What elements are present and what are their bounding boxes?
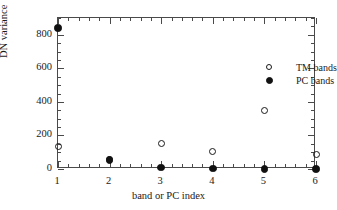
x-axis-minor-tick-top: [295, 18, 296, 21]
y-tick-label: 200: [12, 129, 52, 140]
data-point-pc-bands: [312, 165, 320, 173]
y-axis-minor-tick-right: [311, 127, 314, 128]
filled-circle-icon: [266, 77, 273, 84]
y-axis-minor-tick: [58, 43, 61, 44]
x-axis-minor-tick: [151, 164, 152, 167]
x-tick-label: 3: [148, 176, 172, 187]
y-axis-minor-tick: [58, 152, 61, 153]
x-tick-label: 5: [251, 176, 275, 187]
y-axis-major-tick: [58, 35, 64, 36]
x-axis-minor-tick-top: [68, 18, 69, 21]
y-axis-minor-tick-right: [311, 43, 314, 44]
data-point-pc-bands: [106, 156, 114, 164]
x-axis-major-tick-top: [58, 18, 59, 24]
x-axis-major-tick: [58, 161, 59, 167]
x-axis-minor-tick: [120, 164, 121, 167]
x-axis-minor-tick-top: [306, 18, 307, 21]
data-point-pc-bands: [209, 165, 217, 173]
x-axis-title: band or PC index: [0, 190, 337, 201]
x-axis-minor-tick: [141, 164, 142, 167]
data-point-tm-bands: [158, 140, 165, 147]
y-tick-label: 0: [12, 163, 52, 174]
x-axis-minor-tick-top: [202, 18, 203, 21]
y-axis-minor-tick: [58, 119, 61, 120]
x-axis-minor-tick-top: [192, 18, 193, 21]
x-axis-minor-tick-top: [89, 18, 90, 21]
x-axis-minor-tick-top: [182, 18, 183, 21]
x-axis-minor-tick: [254, 164, 255, 167]
y-axis-minor-tick: [58, 60, 61, 61]
x-axis-minor-tick-top: [79, 18, 80, 21]
x-axis-minor-tick: [223, 164, 224, 167]
x-tick-label: 2: [97, 176, 121, 187]
y-axis-minor-tick-right: [311, 94, 314, 95]
x-tick-label: 6: [303, 176, 327, 187]
y-axis-minor-tick-right: [311, 144, 314, 145]
y-axis-major-tick: [58, 102, 64, 103]
y-axis-minor-tick-right: [311, 161, 314, 162]
x-axis-major-tick-top: [213, 18, 214, 24]
y-axis-minor-tick-right: [311, 26, 314, 27]
x-axis-minor-tick-top: [285, 18, 286, 21]
data-point-tm-bands: [261, 107, 268, 114]
y-axis-major-tick-right: [308, 35, 314, 36]
y-tick-label: 600: [12, 62, 52, 73]
x-tick-label: 4: [200, 176, 224, 187]
y-axis-major-tick: [58, 68, 64, 69]
y-tick-label: 800: [12, 29, 52, 40]
y-axis-minor-tick: [58, 85, 61, 86]
data-point-tm-bands: [313, 151, 320, 158]
x-axis-minor-tick: [79, 164, 80, 167]
x-axis-minor-tick-top: [275, 18, 276, 21]
y-axis-minor-tick: [58, 110, 61, 111]
y-axis-title: DN variance: [0, 5, 9, 58]
y-axis-minor-tick-right: [311, 52, 314, 53]
x-axis-minor-tick: [172, 164, 173, 167]
x-axis-minor-tick: [306, 164, 307, 167]
x-axis-minor-tick: [233, 164, 234, 167]
x-axis-minor-tick: [275, 164, 276, 167]
x-axis-minor-tick-top: [254, 18, 255, 21]
x-axis-minor-tick: [99, 164, 100, 167]
data-point-pc-bands: [54, 24, 62, 32]
x-axis-minor-tick: [192, 164, 193, 167]
legend-label-tm-bands: TM bands: [296, 61, 337, 74]
y-axis-major-tick: [58, 135, 64, 136]
x-axis-major-tick-top: [161, 18, 162, 24]
x-axis-minor-tick-top: [141, 18, 142, 21]
x-axis-minor-tick-top: [151, 18, 152, 21]
legend-label-pc-bands: PC bands: [296, 74, 334, 87]
x-axis-minor-tick: [202, 164, 203, 167]
y-axis-minor-tick: [58, 94, 61, 95]
y-axis-minor-tick: [58, 77, 61, 78]
data-point-tm-bands: [55, 143, 62, 150]
x-axis-minor-tick: [182, 164, 183, 167]
y-axis-major-tick-right: [308, 135, 314, 136]
x-axis-minor-tick: [89, 164, 90, 167]
x-axis-minor-tick-top: [130, 18, 131, 21]
x-axis-minor-tick: [285, 164, 286, 167]
y-axis-minor-tick-right: [311, 110, 314, 111]
y-axis-minor-tick: [58, 127, 61, 128]
x-axis-minor-tick-top: [223, 18, 224, 21]
y-axis-major-tick: [58, 169, 64, 170]
data-point-pc-bands: [157, 164, 165, 172]
x-axis-minor-tick: [244, 164, 245, 167]
x-axis-minor-tick-top: [120, 18, 121, 21]
x-axis-major-tick-top: [110, 18, 111, 24]
open-circle-icon: [266, 64, 272, 70]
x-axis-minor-tick-top: [99, 18, 100, 21]
x-axis-major-tick-top: [316, 18, 317, 24]
y-axis-minor-tick-right: [311, 18, 314, 19]
data-point-tm-bands: [209, 148, 216, 155]
x-axis-minor-tick: [295, 164, 296, 167]
x-axis-minor-tick: [130, 164, 131, 167]
x-tick-label: 1: [45, 176, 69, 187]
x-axis-minor-tick-top: [172, 18, 173, 21]
scatter-chart-figure: DN variance band or PC index 02004006008…: [0, 0, 337, 210]
plot-area: TM bands PC bands: [57, 17, 315, 168]
x-axis-minor-tick-top: [244, 18, 245, 21]
y-axis-major-tick-right: [308, 102, 314, 103]
y-axis-minor-tick: [58, 52, 61, 53]
x-axis-minor-tick-top: [233, 18, 234, 21]
